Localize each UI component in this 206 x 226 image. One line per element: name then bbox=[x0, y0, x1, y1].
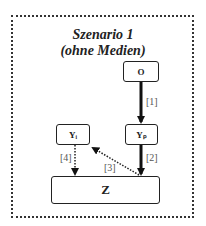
edge-3-arrow bbox=[93, 148, 139, 175]
edge-2-label: [2] bbox=[146, 152, 158, 163]
node-yi: Yᵢ bbox=[56, 124, 90, 145]
node-z: Z bbox=[51, 176, 160, 204]
edge-1-label: [1] bbox=[146, 96, 158, 107]
node-o: O bbox=[123, 61, 159, 82]
node-yp: Yₚ bbox=[125, 124, 158, 145]
edge-3-label: [3] bbox=[104, 162, 116, 173]
edge-4-label: [4] bbox=[60, 152, 72, 163]
